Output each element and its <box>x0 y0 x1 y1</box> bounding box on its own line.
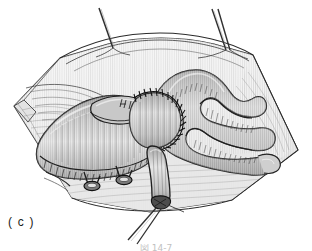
figure-number-caption: 図 14-7 <box>0 244 312 251</box>
stump-tie-knot <box>151 196 170 209</box>
figure-container: ( c ) 図 14-7 <box>0 0 312 251</box>
surgical-illustration <box>0 0 312 251</box>
panel-label: ( c ) <box>8 216 35 228</box>
